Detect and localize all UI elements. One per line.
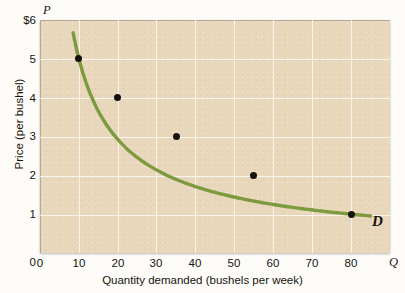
y-tick-label-3: 3 xyxy=(30,130,36,142)
y-axis-symbol: P xyxy=(43,3,51,18)
y-tick-label-2: 2 xyxy=(30,169,36,181)
y-tick-label-1: 1 xyxy=(30,208,36,220)
x-tick-label-80: 80 xyxy=(345,257,358,269)
y-tick-label-6: $6 xyxy=(23,14,36,26)
x-tick-label-0: 0 xyxy=(37,257,43,269)
data-point-80-1 xyxy=(348,211,355,218)
y-tick-label-5: 5 xyxy=(30,53,36,65)
y-axis-title: Price (per bushel) xyxy=(13,44,25,204)
x-tick-label-30: 30 xyxy=(150,257,163,269)
x-tick-label-40: 40 xyxy=(189,257,202,269)
x-tick-label-20: 20 xyxy=(112,257,125,269)
x-axis-title: Quantity demanded (bushels per week) xyxy=(0,274,405,286)
plot-area xyxy=(40,20,390,253)
x-tick-label-50: 50 xyxy=(228,257,241,269)
x-tick-label-60: 60 xyxy=(267,257,280,269)
demand-curve-label: D xyxy=(372,213,383,230)
x-axis-symbol: Q xyxy=(389,255,398,270)
data-point-35-3 xyxy=(173,133,180,140)
demand-curve-figure: P Q $6 5 4 3 2 1 0 0 10 20 30 40 50 60 7… xyxy=(0,0,405,293)
x-tick-label-70: 70 xyxy=(306,257,319,269)
y-tick-label-4: 4 xyxy=(30,92,36,104)
x-tick-label-10: 10 xyxy=(73,257,86,269)
demand-curve-line xyxy=(40,20,390,253)
y-tick-label-0: 0 xyxy=(30,256,36,268)
